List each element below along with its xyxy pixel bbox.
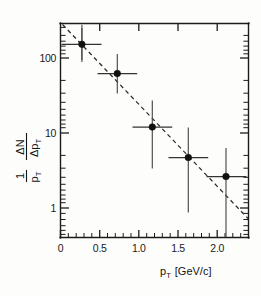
- x-tick-label: 2.0: [210, 242, 224, 254]
- x-tick-label: 1.5: [171, 242, 185, 254]
- x-tick-label: 0.5: [93, 242, 107, 254]
- x-tick-label: 0: [58, 242, 64, 254]
- figure-container: 0 0.5 1.0 1.5 2.0 100 10 1 pT[GeV/c] 1 p…: [0, 0, 261, 296]
- data-point: [207, 148, 247, 237]
- x-tick-labels: 0 0.5 1.0 1.5 2.0: [58, 242, 225, 254]
- x-axis-title: pT[GeV/c]: [160, 265, 211, 280]
- data-point: [98, 54, 138, 94]
- y-axis-title: 1 pT ΔN ΔpT: [14, 133, 43, 182]
- y-axis-title-numerator-2: ΔN: [14, 139, 26, 154]
- x-axis-ticks: [61, 24, 241, 237]
- plot-frame: [60, 23, 249, 238]
- y-tick-label: 1: [50, 202, 56, 214]
- y-axis-title-numerator-1: 1: [14, 173, 26, 179]
- y-tick-label: 100: [39, 52, 56, 64]
- momentum-spectrum-chart: 0 0.5 1.0 1.5 2.0 100 10 1 pT[GeV/c] 1 p…: [0, 0, 261, 296]
- exponential-fit-line: [63, 25, 249, 219]
- x-axis-title-sub: T: [166, 271, 171, 280]
- y-tick-label: 10: [45, 127, 57, 139]
- y-tick-labels: 100 10 1: [39, 52, 56, 214]
- y-axis-ticks: [61, 27, 248, 234]
- data-point: [133, 101, 173, 169]
- x-axis-title-text: pT[GeV/c]: [160, 265, 211, 280]
- y-axis-title-denominator-1: pT: [28, 171, 43, 182]
- y-axis-title-denominator-2: ΔpT: [28, 139, 43, 157]
- x-tick-label: 1.0: [132, 242, 146, 254]
- x-axis-title-units: [GeV/c]: [175, 265, 212, 277]
